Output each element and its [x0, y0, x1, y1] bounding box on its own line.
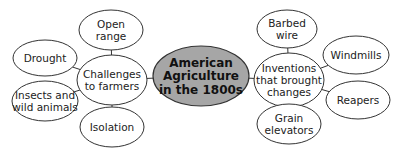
challenges-to-farmers-node-label-line: to farmers	[85, 80, 140, 92]
inventions-node: Inventionsthat broughtchanges	[254, 53, 324, 107]
insects-and-wild-animals-node-label-line: Insects and	[15, 89, 75, 101]
central-topic-node-label-line: in the 1800s	[159, 83, 243, 97]
isolation-node-label-line: Isolation	[90, 121, 134, 133]
open-range-node: Openrange	[79, 10, 143, 50]
central-topic-node-label-line: American	[169, 56, 233, 70]
grain-elevators-node-label-line: elevators	[265, 124, 314, 136]
concept-map: AmericanAgriculturein the 1800sChallenge…	[0, 0, 402, 154]
drought-node-label-line: Drought	[24, 52, 67, 64]
challenges-to-farmers-node: Challengesto farmers	[77, 55, 147, 105]
inventions-node-label-line: that brought	[256, 74, 322, 86]
challenges-to-farmers-node-label-line: Challenges	[83, 68, 141, 80]
insects-and-wild-animals-node-label-line: wild animals	[12, 101, 77, 113]
reapers-node-label-line: Reapers	[337, 94, 380, 106]
connector-inventions-to-windmills	[321, 65, 329, 68]
barbed-wire-node-label-line: Barbed	[268, 17, 306, 29]
connector-inventions-to-reapers	[322, 89, 329, 91]
windmills-node: Windmills	[323, 36, 389, 74]
connector-challenges-to-insects-and-wild-animals	[74, 90, 80, 92]
central-topic-node-label-line: Agriculture	[163, 69, 239, 83]
isolation-node: Isolation	[80, 107, 144, 147]
inventions-node-label-line: Inventions	[262, 62, 317, 74]
grain-elevators-node: Grainelevators	[257, 104, 321, 144]
barbed-wire-node: Barbedwire	[257, 10, 317, 48]
insects-and-wild-animals-node: Insects andwild animals	[12, 81, 78, 121]
open-range-node-label-line: Open	[97, 18, 125, 30]
open-range-node-label-line: range	[96, 30, 127, 42]
connector-challenges-to-drought	[73, 67, 81, 69]
concept-nodes: AmericanAgriculturein the 1800sChallenge…	[12, 10, 390, 147]
barbed-wire-node-label-line: wire	[276, 29, 298, 41]
grain-elevators-node-label-line: Grain	[275, 112, 303, 124]
windmills-node-label-line: Windmills	[331, 49, 382, 61]
drought-node: Drought	[13, 40, 77, 76]
inventions-node-label-line: changes	[267, 86, 311, 98]
central-topic-node: AmericanAgriculturein the 1800s	[153, 46, 249, 106]
reapers-node: Reapers	[326, 81, 390, 119]
